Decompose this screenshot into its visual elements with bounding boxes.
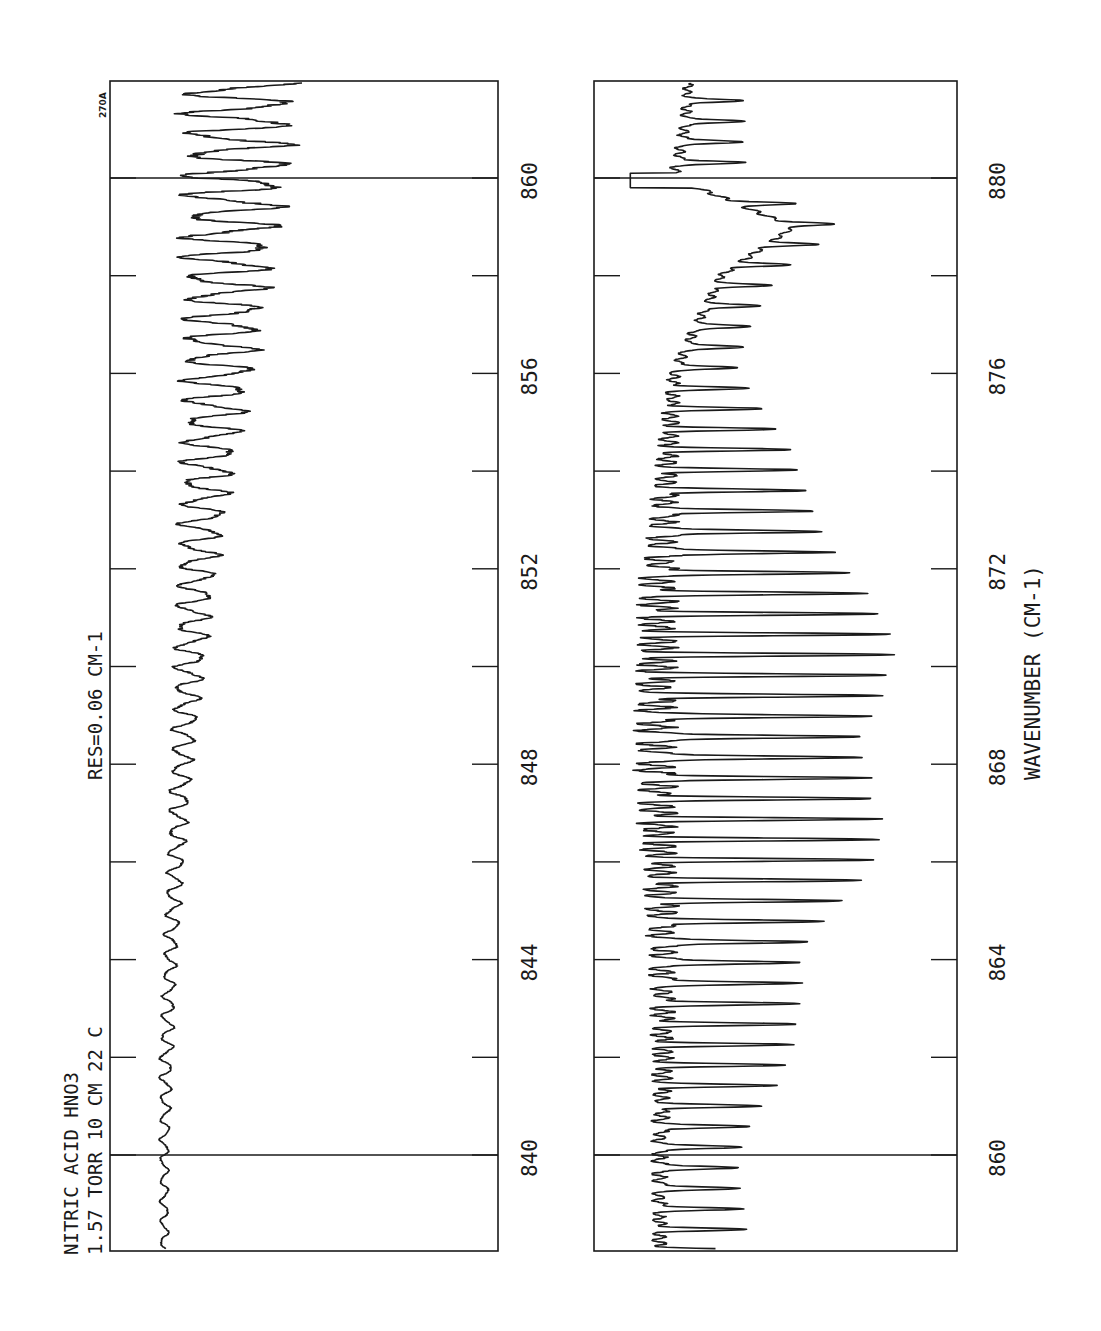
right-panel-ticks <box>594 178 957 1155</box>
tick-label: 860 <box>518 162 542 200</box>
resolution-label: RES=0.06 CM-1 <box>84 631 106 780</box>
tick-label: 880 <box>986 162 1010 200</box>
right-axis-labels: 860864868872876880 <box>986 162 1010 1177</box>
left-panel-frame <box>110 81 498 1251</box>
plot-id-label: 270A <box>98 92 108 118</box>
tick-label: 848 <box>518 748 542 786</box>
left-axis-labels: 840844848852856860 <box>518 162 542 1177</box>
title-line-1: NITRIC ACID HNO3 <box>60 1072 82 1255</box>
tick-label: 868 <box>986 748 1010 786</box>
tick-label: 860 <box>986 1139 1010 1177</box>
tick-label: 856 <box>518 357 542 395</box>
title-line-2: 1.57 TORR 10 CM 22 C <box>84 1026 106 1255</box>
tick-label: 844 <box>518 944 542 982</box>
tick-label: 876 <box>986 357 1010 395</box>
spectrum-figure: NITRIC ACID HNO3 1.57 TORR 10 CM 22 C RE… <box>0 0 1101 1331</box>
right-spectrum-trace <box>630 83 894 1249</box>
tick-label: 840 <box>518 1139 542 1177</box>
x-axis-title: WAVENUMBER (CM-1) <box>1021 565 1045 780</box>
right-panel: 860864868872876880 <box>594 81 1010 1251</box>
tick-label: 872 <box>986 553 1010 591</box>
tick-label: 852 <box>518 553 542 591</box>
left-panel: 840844848852856860 <box>110 81 542 1251</box>
tick-label: 864 <box>986 944 1010 982</box>
left-panel-ticks <box>110 178 498 1155</box>
left-spectrum-trace <box>159 83 302 1249</box>
